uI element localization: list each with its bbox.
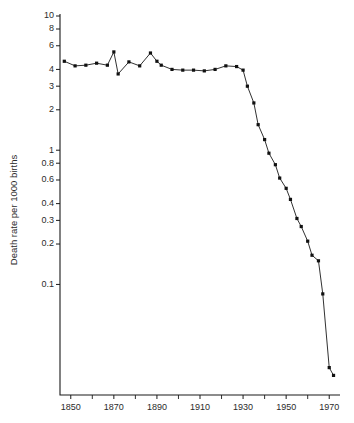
data-point	[192, 69, 195, 72]
x-tick-label: 1950	[276, 402, 296, 412]
data-series	[64, 52, 333, 375]
data-point	[106, 64, 109, 67]
data-point	[63, 60, 66, 63]
data-point	[267, 152, 270, 155]
y-tick-label: 0.8	[41, 158, 54, 168]
data-point	[252, 101, 255, 104]
data-point	[278, 176, 281, 179]
y-tick-label: 8	[49, 23, 54, 33]
data-point	[300, 225, 303, 228]
data-point	[95, 62, 98, 65]
data-point	[235, 65, 238, 68]
y-tick-label: 0.3	[41, 215, 54, 225]
data-point	[246, 85, 249, 88]
axis-spines	[60, 14, 340, 395]
data-point	[224, 64, 227, 67]
chart-container: 108643210.80.60.40.30.20.1 1850187018901…	[0, 0, 354, 423]
y-tick-label: 0.6	[41, 174, 54, 184]
y-tick-label: 0.4	[41, 198, 54, 208]
x-tick-label: 1870	[104, 402, 124, 412]
data-point	[160, 64, 163, 67]
data-point-markers	[63, 50, 335, 377]
data-point	[332, 374, 335, 377]
x-tick-label: 1850	[61, 402, 81, 412]
data-point	[285, 187, 288, 190]
data-point	[257, 123, 260, 126]
data-point	[306, 240, 309, 243]
data-point	[317, 259, 320, 262]
y-tick-label: 4	[49, 64, 54, 74]
y-tick-label: 1	[49, 145, 54, 155]
y-tick-label: 10	[44, 10, 54, 20]
y-tick-label: 3	[49, 81, 54, 91]
series-polyline	[64, 52, 333, 375]
data-point	[127, 60, 130, 63]
data-point	[213, 68, 216, 71]
data-point	[112, 50, 115, 53]
data-point	[181, 69, 184, 72]
x-tick-label: 1890	[147, 402, 167, 412]
data-point	[289, 198, 292, 201]
y-axis-ticks: 108643210.80.60.40.30.20.1	[41, 10, 60, 288]
data-point	[84, 64, 87, 67]
x-tick-label: 1970	[319, 402, 339, 412]
data-point	[241, 69, 244, 72]
data-point	[138, 64, 141, 67]
x-axis-ticks: 1850187018901910193019501970	[61, 395, 339, 412]
data-point	[155, 60, 158, 63]
data-point	[274, 163, 277, 166]
data-point	[170, 68, 173, 71]
data-point	[295, 217, 298, 220]
y-tick-label: 6	[49, 40, 54, 50]
y-tick-label: 0.1	[41, 279, 54, 289]
data-point	[263, 138, 266, 141]
data-point	[117, 72, 120, 75]
data-point	[321, 292, 324, 295]
x-tick-label: 1910	[190, 402, 210, 412]
data-point	[310, 254, 313, 257]
data-point	[328, 366, 331, 369]
y-tick-label: 0.2	[41, 238, 54, 248]
y-tick-label: 2	[49, 104, 54, 114]
axes	[60, 14, 340, 395]
y-axis-title: Death rate per 1000 births	[8, 155, 19, 266]
data-point	[149, 51, 152, 54]
data-point	[73, 64, 76, 67]
line-chart: 108643210.80.60.40.30.20.1 1850187018901…	[0, 0, 354, 423]
data-point	[203, 69, 206, 72]
x-tick-label: 1930	[233, 402, 253, 412]
